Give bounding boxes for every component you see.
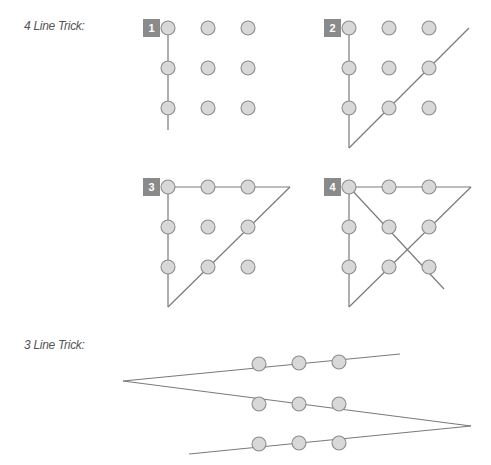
puzzle-dot [292, 356, 306, 370]
puzzle-dot [252, 357, 266, 371]
puzzle-dot [161, 61, 175, 75]
three-line-trick-dots [252, 355, 346, 451]
puzzle-dot [241, 220, 255, 234]
step-badge: 3 [143, 178, 160, 196]
puzzle-dot [382, 21, 396, 35]
puzzle-dot [382, 220, 396, 234]
puzzle-dot [201, 101, 215, 115]
puzzle-dot [342, 180, 356, 194]
puzzle-dot [241, 101, 255, 115]
puzzle-dot [161, 260, 175, 274]
puzzle-dot [292, 436, 306, 450]
puzzle-dot [252, 397, 266, 411]
puzzle-dot [342, 220, 356, 234]
panel-2-lines [349, 28, 469, 148]
puzzle-dot [382, 180, 396, 194]
puzzle-dot [201, 180, 215, 194]
puzzle-dot [342, 21, 356, 35]
panel-3: 3 [143, 178, 255, 274]
puzzle-dot [252, 437, 266, 451]
nine-dot-puzzle-diagram: 1234 [0, 0, 491, 465]
step-badge: 4 [324, 178, 341, 196]
puzzle-dot [241, 180, 255, 194]
panel-2: 2 [324, 19, 436, 115]
puzzle-dot [201, 61, 215, 75]
puzzle-dot [332, 355, 346, 369]
puzzle-dot [342, 260, 356, 274]
puzzle-dot [201, 220, 215, 234]
puzzle-dot [382, 61, 396, 75]
puzzle-dot [342, 101, 356, 115]
panel-4: 4 [324, 178, 436, 274]
puzzle-dot [422, 260, 436, 274]
puzzle-dot [292, 397, 306, 411]
step-badge: 2 [324, 19, 341, 37]
puzzle-dot [422, 21, 436, 35]
panel-3-lines [168, 187, 290, 307]
puzzle-dot [342, 61, 356, 75]
panel-1: 1 [143, 19, 255, 115]
step-number: 1 [148, 22, 154, 34]
puzzle-dot [382, 101, 396, 115]
panel-4-lines [349, 187, 471, 307]
step-badge: 1 [143, 19, 160, 37]
solution-line [349, 28, 469, 148]
puzzle-dot [241, 61, 255, 75]
puzzle-dot [422, 180, 436, 194]
puzzle-dot [382, 260, 396, 274]
solution-line [349, 187, 471, 307]
puzzle-dot [161, 21, 175, 35]
puzzle-dot [161, 101, 175, 115]
puzzle-dot [161, 220, 175, 234]
puzzle-dot [241, 260, 255, 274]
puzzle-dot [422, 61, 436, 75]
solution-line [189, 426, 471, 454]
step-number: 3 [148, 181, 154, 193]
puzzle-dot [161, 180, 175, 194]
puzzle-dot [201, 21, 215, 35]
puzzle-dot [332, 397, 346, 411]
solution-line [168, 187, 290, 307]
puzzle-dot [241, 21, 255, 35]
puzzle-dot [422, 101, 436, 115]
step-number: 4 [329, 181, 336, 193]
puzzle-dot [422, 220, 436, 234]
puzzle-dot [332, 436, 346, 450]
puzzle-dot [201, 260, 215, 274]
step-number: 2 [329, 22, 335, 34]
